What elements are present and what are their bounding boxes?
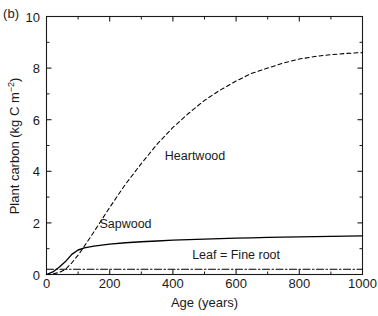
- y-tick-label: 8: [16, 61, 40, 76]
- series-label-heartwood: Heartwood: [165, 149, 225, 163]
- y-tick-label: 6: [16, 112, 40, 127]
- y-tick-label: 4: [16, 164, 40, 179]
- series-label-leaf-fine-root: Leaf = Fine root: [192, 248, 280, 262]
- x-axis-label: Age (years): [46, 295, 363, 310]
- figure-panel-b: (b) Plant carbon (kg C m−2) 0246810 0200…: [0, 0, 378, 316]
- x-axis-tick-labels: 02004006008001000: [0, 276, 378, 296]
- x-tick-label: 0: [43, 276, 50, 291]
- y-tick-label: 2: [16, 215, 40, 230]
- y-tick-label: 10: [16, 9, 40, 24]
- y-axis-label-exponent: −2: [6, 82, 16, 92]
- y-axis-tick-labels: 0246810: [16, 0, 40, 316]
- x-tick-label: 400: [162, 276, 184, 291]
- data-series-group: [47, 53, 363, 275]
- x-tick-label: 200: [99, 276, 121, 291]
- series-label-sapwood: Sapwood: [99, 217, 151, 231]
- x-tick-label: 600: [225, 276, 247, 291]
- plot-frame: [47, 17, 363, 275]
- axis-ticks: [47, 17, 363, 275]
- x-tick-label: 800: [288, 276, 310, 291]
- x-tick-label: 1000: [348, 276, 377, 291]
